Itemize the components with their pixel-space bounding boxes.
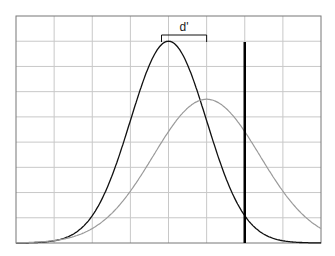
- signal-detection-chart: [0, 0, 335, 256]
- grid: [16, 16, 321, 243]
- d-prime-label: d': [180, 20, 189, 34]
